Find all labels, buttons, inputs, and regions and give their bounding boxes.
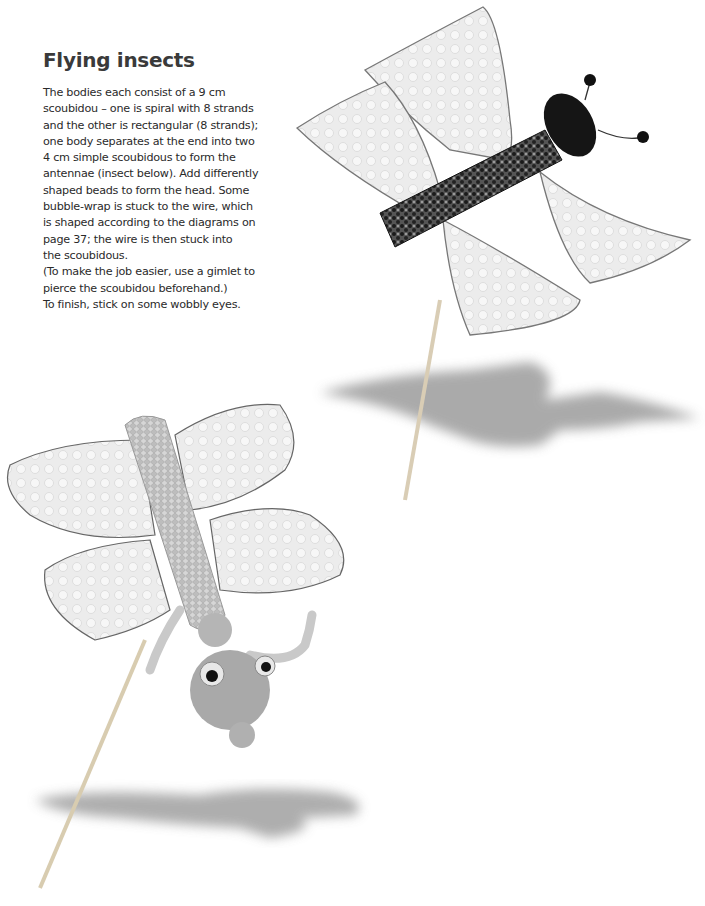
- top-insect-shadow: [320, 362, 700, 447]
- bottom-insect-stick: [40, 640, 145, 888]
- bottom-insect-shadow: [35, 789, 359, 838]
- bottom-insect-head: [190, 613, 275, 748]
- insect-photos: [0, 0, 705, 906]
